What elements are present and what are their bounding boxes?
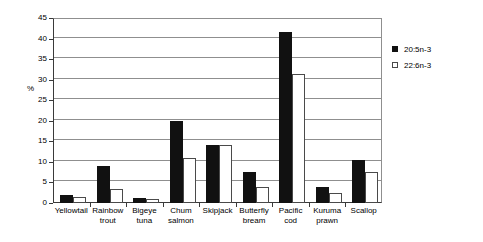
bar[interactable] [170, 121, 183, 203]
x-axis-label: Scallop [345, 206, 382, 216]
legend: 20:5n-322:6n-3 [392, 41, 476, 73]
bar[interactable] [243, 172, 256, 203]
legend-swatch-icon [392, 62, 398, 68]
bar[interactable] [60, 195, 73, 203]
x-axis-label: Yellowtail [53, 206, 90, 216]
bar[interactable] [146, 199, 159, 203]
bar-group [126, 18, 163, 203]
x-axis-label-line: Skipjack [199, 206, 236, 216]
y-axis-tick-label: 45 [7, 14, 47, 22]
bar[interactable] [73, 197, 86, 203]
bar[interactable] [183, 158, 196, 203]
legend-item[interactable]: 20:5n-3 [392, 41, 476, 57]
y-axis-tick-label: 5 [7, 178, 47, 186]
chart-figure: % 051015202530354045 YellowtailRainbowtr… [0, 0, 483, 242]
bar-group [345, 18, 382, 203]
x-axis-label: Skipjack [199, 206, 236, 216]
bar[interactable] [352, 160, 365, 203]
x-axis-label-line: Scallop [345, 206, 382, 216]
x-axis-label-line: Butterfly [236, 206, 273, 216]
bar-group [53, 18, 90, 203]
bar[interactable] [316, 187, 329, 203]
x-axis-label: Kurumaprawn [309, 206, 346, 226]
y-axis-tick-label: 15 [7, 137, 47, 145]
x-axis-label-line: Yellowtail [53, 206, 90, 216]
y-axis-tick-label: 20 [7, 117, 47, 125]
x-axis-label: Bigeyetuna [126, 206, 163, 226]
y-axis-tick-label: 25 [7, 96, 47, 104]
x-axis-label-line: Bigeye [126, 206, 163, 216]
bar[interactable] [329, 193, 342, 203]
y-axis-tick-label: 30 [7, 76, 47, 84]
bar[interactable] [292, 74, 305, 204]
x-axis-label-line: Rainbow [90, 206, 127, 216]
x-axis-label: Pacificcod [272, 206, 309, 226]
bar[interactable] [133, 198, 146, 203]
bar[interactable] [97, 166, 110, 203]
bar[interactable] [365, 172, 378, 203]
x-axis-label-line: prawn [309, 216, 346, 226]
bar-group [199, 18, 236, 203]
legend-swatch-icon [392, 46, 398, 52]
bar-group [309, 18, 346, 203]
x-axis-label-line: Pacific [272, 206, 309, 216]
y-axis-tick-label: 40 [7, 35, 47, 43]
x-axis-label-line: Kuruma [309, 206, 346, 216]
x-axis-label: Butterflybream [236, 206, 273, 226]
y-axis-tick-label: 0 [7, 199, 47, 207]
x-axis-label: Rainbowtrout [90, 206, 127, 226]
x-axis-labels: YellowtailRainbowtroutBigeyetunaChumsalm… [53, 206, 382, 240]
y-axis-title: % [27, 84, 34, 93]
x-axis-label-line: trout [90, 216, 127, 226]
x-axis-label-line: Chum [163, 206, 200, 216]
bar[interactable] [256, 187, 269, 203]
bars-layer [53, 18, 382, 203]
x-axis-label: Chumsalmon [163, 206, 200, 226]
legend-label: 20:5n-3 [404, 45, 431, 54]
y-axis-tick-label: 35 [7, 55, 47, 63]
bar-group [236, 18, 273, 203]
x-axis-label-line: cod [272, 216, 309, 226]
x-axis-label-line: salmon [163, 216, 200, 226]
bar-group [163, 18, 200, 203]
bar-group [272, 18, 309, 203]
x-axis-label-line: tuna [126, 216, 163, 226]
bar-group [90, 18, 127, 203]
y-axis-tick-label: 10 [7, 158, 47, 166]
x-axis-label-line: bream [236, 216, 273, 226]
y-axis-tick-mark [49, 203, 53, 204]
legend-label: 22:6n-3 [404, 61, 431, 70]
legend-item[interactable]: 22:6n-3 [392, 57, 476, 73]
bar[interactable] [206, 145, 219, 203]
bar[interactable] [110, 189, 123, 203]
bar[interactable] [279, 32, 292, 203]
bar[interactable] [219, 145, 232, 203]
